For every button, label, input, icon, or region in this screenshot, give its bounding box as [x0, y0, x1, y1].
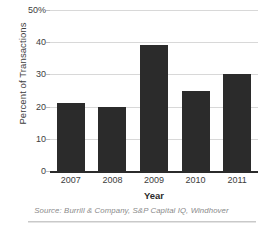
bar-2008 [98, 107, 126, 171]
bar-2010 [182, 91, 210, 172]
x-tick-label: 2010 [176, 175, 216, 185]
bar-2007 [57, 103, 85, 171]
x-tick-label: 2008 [92, 175, 132, 185]
x-axis-tick-labels: 20072008200920102011 [50, 175, 258, 189]
y-tick-label: 10 [2, 134, 46, 144]
source-note: Source: Burrill & Company, S&P Capital I… [0, 206, 263, 215]
y-tick-label: 0 [2, 166, 46, 176]
chart-figure: Percent of Transactions 01020304050% 200… [0, 0, 263, 230]
y-tick-label: 40 [2, 37, 46, 47]
x-tick-label: 2009 [134, 175, 174, 185]
footer-divider [28, 221, 256, 223]
y-tick-label: 50% [2, 5, 46, 15]
y-tick-label: 20 [2, 102, 46, 112]
gridline [50, 10, 258, 11]
x-axis-line [50, 171, 258, 173]
bar-2009 [140, 45, 168, 171]
y-tick-label: 30 [2, 69, 46, 79]
y-axis-tick-labels: 01020304050% [0, 10, 46, 171]
x-axis-title: Year [50, 190, 258, 201]
x-tick-label: 2011 [217, 175, 257, 185]
plot-area [50, 10, 258, 171]
bar-2011 [223, 74, 251, 171]
x-tick-label: 2007 [51, 175, 91, 185]
gridline [50, 42, 258, 43]
